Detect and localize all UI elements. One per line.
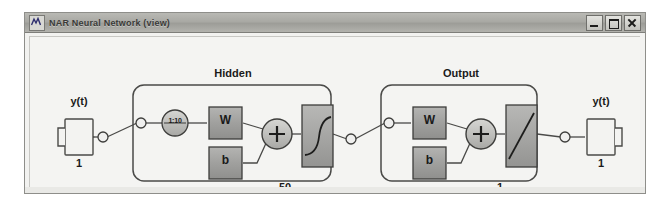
- hidden-weight-label: W: [209, 113, 242, 127]
- hidden-transfer-function-block: [302, 105, 333, 167]
- output-label: y(t): [581, 95, 621, 107]
- output-weight-label: W: [413, 113, 446, 127]
- maximize-button[interactable]: [605, 15, 622, 31]
- window-titlebar[interactable]: NAR Neural Network (view): [25, 13, 645, 33]
- output-sum-block: [466, 119, 496, 149]
- output-layer-title: Output: [413, 67, 509, 79]
- nar-neural-network-window: NAR Neural Network (view): [24, 12, 646, 194]
- window-title: NAR Neural Network (view): [49, 18, 586, 28]
- window-controls: [586, 15, 641, 31]
- input-size-label: 1: [59, 157, 99, 169]
- output-port-block: [587, 119, 622, 155]
- hidden-bias-label: b: [209, 153, 242, 167]
- window-statusbar: [25, 187, 645, 193]
- hidden-sum-block: [262, 119, 292, 149]
- close-button[interactable]: [624, 15, 641, 31]
- diagram-canvas: y(t) 1 Hidden 1:10 W b 50 Output W b 1 y…: [25, 33, 645, 193]
- hidden-layer-title: Hidden: [185, 67, 281, 79]
- network-diagram: [25, 33, 645, 191]
- matlab-wave-icon: [29, 15, 45, 31]
- matlab-wave-glyph: [31, 17, 41, 27]
- input-port-block: [58, 119, 93, 155]
- minimize-button[interactable]: [586, 15, 603, 31]
- output-transfer-function-block: [506, 105, 537, 167]
- hidden-delay-label: 1:10: [157, 117, 193, 124]
- input-label: y(t): [59, 95, 99, 107]
- output-size-label: 1: [581, 157, 621, 169]
- screenshot-root: NAR Neural Network (view): [0, 0, 660, 215]
- output-bias-label: b: [413, 153, 446, 167]
